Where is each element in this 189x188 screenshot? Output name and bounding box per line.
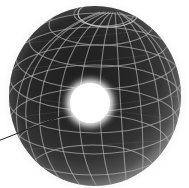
hotspot-core [70,83,110,123]
globe-canvas [0,0,189,188]
globe-scene: Wireframe globe with bright polar-view h… [0,0,189,188]
